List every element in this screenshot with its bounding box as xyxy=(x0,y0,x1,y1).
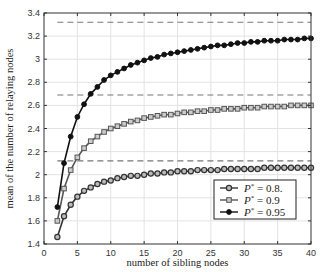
legend: P* = 0.8.P* = 0.9P* = 0.95 xyxy=(214,180,296,219)
y-tick-label: 2.2 xyxy=(27,147,40,157)
x-tick-label: 5 xyxy=(75,248,80,258)
line-chart: 05101520253035401.41.61.822.22.42.62.833… xyxy=(0,0,324,272)
y-tick-label: 2.6 xyxy=(27,100,40,110)
asymptote-lines xyxy=(57,22,311,161)
svg-text:P* = 0.8.: P* = 0.8. xyxy=(243,182,283,194)
x-tick-label: 35 xyxy=(273,248,283,258)
y-tick-label: 3 xyxy=(35,54,40,64)
y-tick-label: 2.4 xyxy=(27,124,40,134)
y-tick-label: 2 xyxy=(35,170,40,180)
y-tick-label: 1.4 xyxy=(27,239,40,249)
svg-text:P* = 0.95: P* = 0.95 xyxy=(243,206,286,218)
y-tick-label: 3.2 xyxy=(27,31,40,41)
y-tick-label: 1.8 xyxy=(27,193,40,203)
y-tick-label: 2.8 xyxy=(27,77,40,87)
y-tick-label: 1.6 xyxy=(27,216,40,226)
x-tick-label: 30 xyxy=(239,248,249,258)
x-axis-label: number of sibling nodes xyxy=(127,257,229,268)
svg-text:P* = 0.9: P* = 0.9 xyxy=(243,194,280,206)
y-tick-label: 3.4 xyxy=(27,8,40,18)
x-tick-label: 40 xyxy=(306,248,316,258)
x-tick-label: 10 xyxy=(106,248,116,258)
y-axis-label: mean of the number of relaying nodes xyxy=(4,49,15,209)
x-tick-label: 0 xyxy=(41,248,46,258)
